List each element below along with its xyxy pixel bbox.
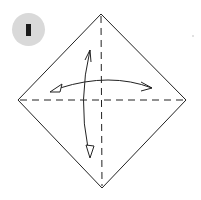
origami-diagram	[0, 0, 201, 200]
faint-dot	[192, 35, 194, 37]
